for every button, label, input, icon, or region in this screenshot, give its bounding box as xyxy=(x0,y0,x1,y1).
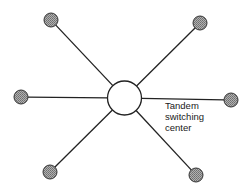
link-left xyxy=(28,97,108,98)
hub-label-line-1: Tandem xyxy=(165,100,199,111)
star-network-diagram: Tandem switching center xyxy=(0,0,250,195)
hub-label-line-2: switching xyxy=(165,111,204,122)
node-bottom-right xyxy=(189,168,203,182)
hub-label: Tandem switching center xyxy=(165,100,207,133)
node-right xyxy=(224,93,238,107)
node-left xyxy=(14,90,28,104)
node-top-right xyxy=(193,16,207,30)
node-bottom-left xyxy=(43,165,57,179)
link-top-right xyxy=(137,28,195,86)
tandem-switching-center-node xyxy=(108,81,142,115)
node-top-left xyxy=(44,13,58,27)
link-bottom-left xyxy=(55,110,112,167)
link-top-left xyxy=(56,25,113,86)
hub-label-line-3: center xyxy=(165,122,191,133)
